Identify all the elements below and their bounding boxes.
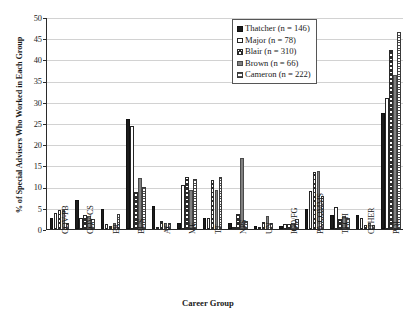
legend-swatch [237,61,243,67]
bar [79,218,82,229]
legend-swatch [237,49,243,55]
y-tick-mark [43,230,46,231]
x-tick-label: ME [189,222,197,234]
y-tick-label: 15 [20,162,42,171]
bar-group [149,18,175,229]
bar [75,200,78,229]
x-tick-label: ER [113,224,121,234]
bar [105,224,108,230]
bar-group [47,18,73,229]
x-tick-label: PA/COMMS [317,193,325,234]
y-tick-label: 10 [20,183,42,192]
x-tick-label: UN [266,223,274,234]
bar [240,158,243,229]
bar [258,227,261,229]
x-axis-title: Career Group [0,298,416,308]
bar [228,223,231,229]
y-tick-label: 40 [20,56,42,65]
x-tick-label: NPS [240,220,248,234]
bar [130,126,133,229]
bar [381,113,384,229]
bar [279,226,282,229]
y-tick-label: 20 [20,141,42,150]
legend-label: Cameron (n = 222) [245,70,311,79]
bar [389,50,392,229]
bar [177,223,180,229]
bar [330,215,333,229]
y-tick-label: 45 [20,35,42,44]
y-tick-label: 5 [20,205,42,214]
y-tick-label: 0 [20,226,42,235]
legend-label: Blair (n = 310) [245,47,296,56]
y-tick-label: 30 [20,99,42,108]
bar [181,185,184,229]
bar [393,75,396,229]
bar [305,209,308,229]
bar-group [353,18,379,229]
legend-swatch [237,72,243,78]
bar-group [328,18,354,229]
y-tick-label: 25 [20,120,42,129]
bar [385,98,388,229]
legend-item: Blair (n = 310) [237,46,311,57]
bar [207,218,210,229]
bar [309,191,312,229]
x-tick-label: AC [164,223,172,234]
legend-item: Brown (n = 66) [237,57,311,68]
x-tick-label: GOV-CS [87,205,95,234]
bar-group [200,18,226,229]
bar [254,226,257,229]
legend-item: Major (n = 78) [237,34,311,45]
x-tick-label: GOV-PB [62,205,70,234]
bar [232,227,235,229]
bar [156,227,159,229]
bar-group [73,18,99,229]
legend-label: Brown (n = 66) [245,59,298,68]
legend-label: Major (n = 78) [245,36,296,45]
bar [152,206,155,229]
bar [101,209,104,229]
bar [283,224,286,230]
bar-group [98,18,124,229]
legend: Thatcher (n = 146)Major (n = 78)Blair (n… [232,19,317,84]
x-tick-label: POL [393,219,401,234]
x-tick-label: TT [215,224,223,234]
bar [50,218,53,229]
plot-area [46,18,403,230]
bar [203,218,206,229]
legend-item: Thatcher (n = 146) [237,23,311,34]
x-tick-label: IGO/FG [291,208,299,234]
legend-label: Thatcher (n = 146) [245,24,310,33]
bar [211,180,214,229]
bar-group [379,18,405,229]
bar-group [124,18,150,229]
bar [219,177,222,229]
figure: % of Special Advisers Who Worked in Each… [0,0,416,328]
y-tick-label: 35 [20,77,42,86]
bar [356,215,359,229]
bar [334,207,337,229]
legend-item: Cameron (n = 222) [237,69,311,80]
bar [54,213,57,229]
y-tick-label: 50 [20,14,42,23]
x-tick-label: TECH [342,213,350,234]
bar [126,119,129,229]
bar-series-container [47,18,403,229]
x-tick-label: BUS [138,219,146,234]
x-tick-label: OTHER [368,208,376,234]
bar-group [175,18,201,229]
bar [397,32,400,229]
legend-swatch [237,26,243,32]
legend-swatch [237,38,243,44]
bar [360,218,363,229]
